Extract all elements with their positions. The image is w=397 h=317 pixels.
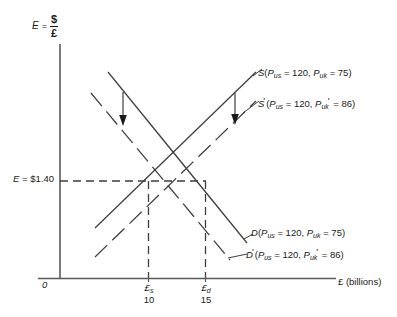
x-tick-qs-value: 10 [134, 295, 164, 305]
x-tick-qs-symbol: £s [134, 283, 164, 293]
origin-label: 0 [42, 280, 47, 290]
exchange-rate-supply-demand-figure: E = $ £ E = $1.40 0 £ (billions) £s 10 £… [0, 0, 397, 317]
leader-line-demand-shifted [228, 254, 247, 258]
curve-label-supply-shifted: S'(Pus = 120, Puk' = 86) [258, 99, 355, 109]
plot-area [0, 0, 397, 317]
curve-label-demand-shifted: D'(Pus = 120, Puk' = 86) [246, 250, 344, 260]
curve-demand-original [108, 72, 247, 243]
equilibrium-var: E [13, 173, 19, 184]
curve-label-supply-original: S(Pus = 120, Puk = 75) [258, 68, 352, 78]
fraction-denominator: £ [50, 26, 58, 39]
x-tick-quantity-demanded: £d 15 [191, 283, 221, 305]
x-tick-quantity-supplied: £s 10 [134, 283, 164, 305]
x-tick-qd-value: 15 [191, 295, 221, 305]
y-axis-title: E = $ £ [32, 14, 58, 39]
curve-label-demand-original: D(Pus = 120, Puk = 75) [251, 228, 345, 238]
curve-supply-shifted [95, 101, 256, 257]
x-tick-qd-symbol: £d [191, 283, 221, 293]
curve-supply-original [95, 72, 256, 228]
leader-line-supply-shifted [243, 101, 259, 113]
y-axis-equals: = [42, 22, 47, 31]
y-axis-var: E [32, 21, 39, 32]
dollar-per-pound-fraction: $ £ [50, 14, 58, 39]
x-axis-title: £ (billions) [338, 277, 381, 287]
equilibrium-rate-label: E = $1.40 [13, 174, 54, 184]
demand-shift-arrow [119, 92, 127, 126]
equilibrium-equals: = [22, 173, 28, 184]
fraction-numerator: $ [50, 14, 58, 26]
equilibrium-value: $1.40 [30, 173, 54, 184]
supply-shift-arrow [231, 93, 239, 125]
